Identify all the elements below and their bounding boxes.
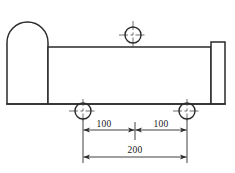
drawing-canvas: 100 100 200 xyxy=(0,0,235,173)
dim-100-right-text: 100 xyxy=(153,119,168,129)
rounded-left-end-shape xyxy=(7,22,48,104)
part-outline xyxy=(7,22,225,104)
right-flange-shape xyxy=(211,42,225,104)
dim-100-left-text: 100 xyxy=(96,119,111,129)
dim-200-text: 200 xyxy=(127,145,142,155)
hole-top-circle xyxy=(125,27,141,43)
main-body-shape xyxy=(48,47,211,104)
hole-top xyxy=(119,21,147,49)
technical-drawing-svg: 100 100 200 xyxy=(0,0,235,173)
